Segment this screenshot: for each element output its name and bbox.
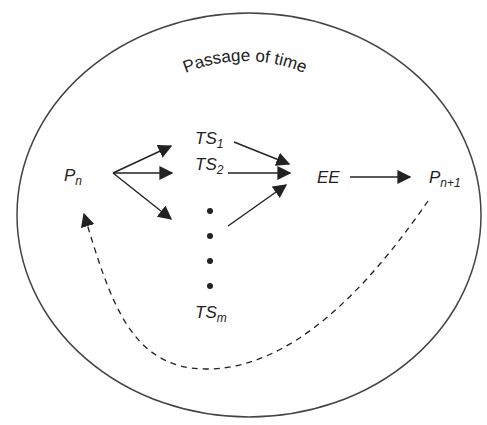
diagram-canvas: Passage of time — [0, 0, 487, 425]
ellipsis-dot — [207, 208, 213, 214]
node-pn1: Pn+1 — [429, 169, 461, 189]
node-ts2: TS2 — [195, 156, 223, 176]
arrow-ts1-ee — [234, 142, 289, 164]
time-boundary-ellipse — [17, 13, 481, 417]
node-ee: EE — [317, 169, 340, 186]
arrow-pn-tsm — [113, 173, 171, 219]
arrow-pn-ts1 — [113, 146, 171, 173]
node-pn: Pn — [64, 167, 82, 187]
ellipsis-dot — [207, 233, 213, 239]
ellipsis-dot — [207, 283, 213, 289]
arrow-tsm-ee — [228, 185, 286, 226]
feedback-dashed-arrow — [84, 201, 428, 369]
node-tsm: TSm — [195, 304, 227, 324]
node-ts1: TS1 — [195, 130, 223, 150]
title-arc-text: Passage of time — [180, 46, 309, 77]
ellipsis-dot — [207, 258, 213, 264]
